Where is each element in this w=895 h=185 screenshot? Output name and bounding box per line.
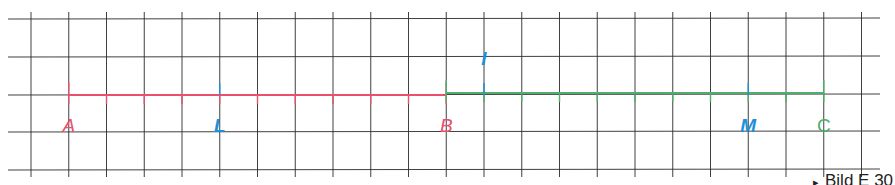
point-label-c: C bbox=[817, 115, 831, 136]
grid-line-horizontal bbox=[8, 169, 880, 170]
grid-line-horizontal bbox=[8, 56, 880, 57]
point-label-l: L bbox=[214, 115, 226, 136]
grid-line-horizontal bbox=[8, 18, 880, 19]
caption-text: Bild E 30 bbox=[825, 171, 893, 185]
point-label-b: B bbox=[440, 115, 453, 136]
point-label-i: I bbox=[481, 48, 487, 69]
point-label-m: M bbox=[740, 115, 757, 136]
caption-marker-icon: ▸ bbox=[813, 176, 819, 185]
figure-caption: ▸Bild E 30 bbox=[813, 172, 893, 185]
point-label-a: A bbox=[61, 115, 75, 136]
number-line-diagram: ALBMCI bbox=[0, 0, 895, 185]
